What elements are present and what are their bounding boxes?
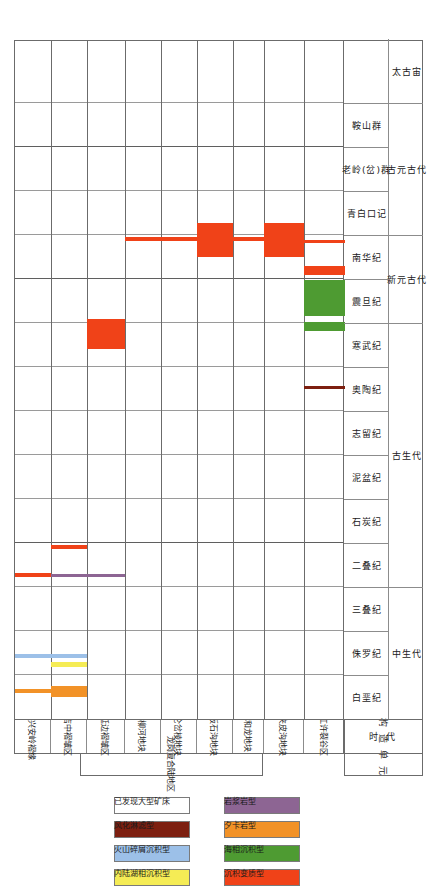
period-label: 白垩纪	[351, 691, 381, 704]
period-cell: 寒武纪	[344, 323, 388, 367]
unit-cell-jiangxu: 江许裂谷区	[304, 719, 345, 753]
tectonic-unit-column: 大兴安岭褶缘 吉中褶皱区 延边褶皱区 柳河地块 仑岔棱地块 板石沟地块 和龙地块…	[14, 720, 344, 754]
tectonic-group-column: 龙岗复合陆地区	[14, 754, 344, 776]
unit-cell-yanbian: 延边褶皱区	[87, 719, 125, 753]
unit-cell-liuhe: 柳河地块	[125, 719, 161, 753]
period-cell: 奥陶纪	[344, 367, 388, 411]
gridline-v	[15, 278, 343, 279]
period-cell: 老岭(岔)群	[344, 147, 388, 191]
gridline-v	[15, 190, 343, 191]
data-bar-sed-metamorphic	[51, 545, 87, 549]
gridline-v	[15, 102, 343, 103]
period-label: 老岭(岔)群	[341, 163, 390, 176]
era-cell: 古生代	[388, 323, 423, 587]
period-label: 三叠纪	[351, 603, 381, 616]
legend-label: 沉积变质型	[224, 867, 300, 884]
unit-cell-helong: 和龙地块	[233, 719, 264, 753]
unit-label: 夹皮沟地块	[278, 716, 289, 756]
era-label: 太古宙	[391, 65, 421, 78]
period-label: 鞍山群	[351, 119, 381, 132]
data-bar-sed-metamorphic	[125, 237, 161, 241]
gridline-h	[87, 41, 88, 719]
group-cell-longgang: 龙岗复合陆地区	[80, 754, 263, 776]
gridline-h	[264, 41, 265, 719]
gridline-h	[233, 41, 234, 719]
gridline-v	[15, 146, 343, 147]
period-label: 石炭纪	[351, 515, 381, 528]
era-cell: 新元古代	[388, 235, 423, 323]
period-cell: 三叠纪	[344, 587, 388, 631]
data-bar-sed-metamorphic	[233, 237, 264, 241]
time-scale-header: 白垩纪 侏罗纪 三叠纪 二叠纪 石炭纪 泥盆纪 志留纪 奥陶纪 寒武纪 震旦纪 …	[344, 40, 423, 720]
period-cell: 志留纪	[344, 411, 388, 455]
gridline-v	[15, 498, 343, 499]
legend-label: 火山碎屑沉积型	[114, 843, 190, 860]
legend-label: 风化淋滤型	[114, 819, 190, 836]
era-cell: 古元古代	[388, 103, 423, 235]
unit-label: 和龙地块	[243, 720, 254, 752]
unit-label: 仑岔棱地块	[173, 716, 184, 756]
gridline-v	[15, 410, 343, 411]
period-label: 二叠纪	[351, 559, 381, 572]
period-cell: 白垩纪	[344, 675, 388, 719]
period-cell: 泥盆纪	[344, 455, 388, 499]
time-axis-title-label: 时 代	[369, 730, 399, 743]
data-bar-marine-sed	[304, 322, 345, 331]
period-label: 志留纪	[351, 427, 381, 440]
unit-label: 板石沟地块	[209, 716, 220, 756]
unit-cell-jiapigou: 夹皮沟地块	[264, 719, 304, 753]
data-bar-sed-metamorphic	[161, 237, 197, 241]
era-label: 古生代	[391, 449, 421, 462]
gridline-v	[15, 366, 343, 367]
period-cell: 南华纪	[344, 235, 388, 279]
period-label: 震旦纪	[351, 295, 381, 308]
era-label: 新元古代	[386, 273, 426, 286]
time-axis-title: 时 代	[344, 720, 423, 754]
data-bar-magmatic	[87, 574, 125, 577]
unit-cell-daxinganling: 大兴安岭褶缘	[15, 719, 51, 753]
data-bar-sed-metamorphic	[304, 266, 345, 275]
figure-page: 岩浆岩型 已发现大型矿床 夕卡岩型 风化淋滤型 海相沉积型 火山碎屑沉积型 沉积…	[0, 0, 437, 888]
legend-label: 岩浆岩型	[224, 795, 300, 812]
period-cell: 侏罗纪	[344, 631, 388, 675]
gridline-v	[15, 586, 343, 587]
period-cell: 鞍山群	[344, 103, 388, 147]
data-bar-marine-sed	[304, 280, 345, 316]
data-bar-weathering	[304, 386, 345, 389]
period-label: 泥盆纪	[351, 471, 381, 484]
gridline-v	[15, 674, 343, 675]
data-bar-skarn	[15, 689, 51, 693]
unit-label: 吉中褶皱区	[63, 716, 74, 756]
data-bar-sed-metamorphic	[304, 240, 345, 243]
gridline-h	[197, 41, 198, 719]
gridline-v	[15, 542, 343, 543]
chart-matrix	[14, 40, 344, 720]
unit-label: 柳河地块	[137, 720, 148, 752]
unit-label: 江许裂谷区	[319, 716, 330, 756]
data-bar-volcaniclastic	[51, 654, 87, 658]
data-bar-magmatic	[51, 574, 87, 577]
data-bar-lacustrine	[51, 662, 87, 667]
era-cell: 太古宙	[388, 39, 423, 103]
period-label: 奥陶纪	[351, 383, 381, 396]
rotated-figure-canvas: 岩浆岩型 已发现大型矿床 夕卡岩型 风化淋滤型 海相沉积型 火山碎屑沉积型 沉积…	[0, 0, 437, 888]
gridline-v	[15, 630, 343, 631]
era-label: 中生代	[391, 647, 421, 660]
data-bar-sed-metamorphic	[264, 223, 304, 257]
unit-cell-luncha: 仑岔棱地块	[161, 719, 197, 753]
gridline-h	[51, 41, 52, 719]
period-cell: 青白口记	[344, 191, 388, 235]
data-bar-skarn	[51, 686, 87, 697]
period-cell: 二叠纪	[344, 543, 388, 587]
legend-label: 海相沉积型	[224, 843, 300, 860]
era-cell: 中生代	[388, 587, 423, 719]
legend-label: 已发现大型矿床	[114, 795, 190, 812]
period-label: 寒武纪	[351, 339, 381, 352]
gridline-h	[304, 41, 305, 719]
data-bar-sed-metamorphic	[197, 223, 233, 257]
period-label: 青白口记	[346, 207, 386, 220]
legend: 岩浆岩型 已发现大型矿床 夕卡岩型 风化淋滤型 海相沉积型 火山碎屑沉积型 沉积…	[14, 788, 423, 888]
period-cell: 石炭纪	[344, 499, 388, 543]
unit-cell-banshigou: 板石沟地块	[197, 719, 233, 753]
legend-label: 夕卡岩型	[224, 819, 300, 836]
